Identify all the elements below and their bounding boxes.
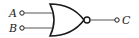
output-c: C bbox=[90, 14, 131, 27]
inversion-bubble bbox=[84, 17, 90, 23]
input-a-label: A bbox=[8, 7, 17, 20]
input-b-terminal bbox=[20, 26, 24, 30]
input-a-terminal bbox=[20, 11, 24, 15]
input-b: B bbox=[8, 22, 53, 35]
input-a: A bbox=[8, 7, 53, 20]
nor-gate-body bbox=[50, 4, 84, 36]
output-terminal bbox=[115, 18, 119, 22]
output-c-label: C bbox=[122, 14, 131, 27]
input-b-label: B bbox=[8, 22, 17, 35]
nor-gate-diagram: A B C bbox=[0, 0, 139, 38]
